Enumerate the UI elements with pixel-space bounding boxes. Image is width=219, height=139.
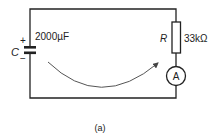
circuit-diagram: + − C 2000µF R 33kΩ A (a) [0,0,219,139]
capacitor-minus-sign: − [20,53,26,64]
resistor-value: 33kΩ [184,33,208,44]
figure-caption: (a) [95,123,106,133]
resistor-symbol [172,22,181,53]
current-direction-arrow [48,62,158,87]
capacitor-value: 2000µF [35,31,69,42]
capacitor-label: C [11,46,19,58]
resistor-label: R [160,33,167,44]
capacitor-plus-sign: + [20,35,26,46]
ammeter-label: A [173,71,180,82]
circuit-wires [30,9,176,98]
